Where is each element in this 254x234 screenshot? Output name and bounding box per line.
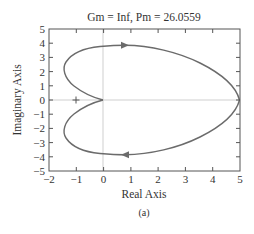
y-tick-labels: 5 4 3 2 1 0 −1 −2 −3 −4 −5 xyxy=(33,23,45,177)
x-tick-label: 3 xyxy=(183,173,189,185)
nyquist-curve-lower xyxy=(64,100,239,155)
x-tick-label: 2 xyxy=(155,173,161,185)
nyquist-curve-upper xyxy=(64,45,239,100)
x-axis-label: Real Axis xyxy=(121,188,167,200)
y-axis-label: Imaginary Axis xyxy=(11,64,24,136)
y-tick-label: −4 xyxy=(33,151,45,163)
arrow-right-icon xyxy=(121,42,129,49)
y-tick-label: −5 xyxy=(33,165,45,177)
nyquist-chart: Gm = Inf, Pm = 26.0559 −2 −1 0 xyxy=(0,0,254,234)
x-tick-label: 1 xyxy=(128,173,134,185)
y-tick-label: 1 xyxy=(40,80,46,92)
chart-title: Gm = Inf, Pm = 26.0559 xyxy=(87,11,201,24)
y-tick-label: 5 xyxy=(40,23,46,35)
y-tick-label: −1 xyxy=(33,108,45,120)
arrow-left-icon xyxy=(121,151,129,158)
y-tick-label: 0 xyxy=(40,94,46,106)
critical-point-plus-icon xyxy=(73,97,80,104)
y-tick-label: 4 xyxy=(40,37,46,49)
x-tick-label: 0 xyxy=(101,173,107,185)
x-tick-labels: −2 −1 0 1 2 3 4 5 xyxy=(43,173,243,185)
y-tick-label: −3 xyxy=(33,137,45,149)
figure-caption: (a) xyxy=(138,207,149,219)
y-tick-label: 3 xyxy=(40,51,46,63)
x-tick-label: −1 xyxy=(70,173,82,185)
x-tick-label: 4 xyxy=(210,173,216,185)
y-tick-label: −2 xyxy=(33,122,45,134)
y-tick-label: 2 xyxy=(40,66,46,78)
x-tick-label: 5 xyxy=(237,173,243,185)
